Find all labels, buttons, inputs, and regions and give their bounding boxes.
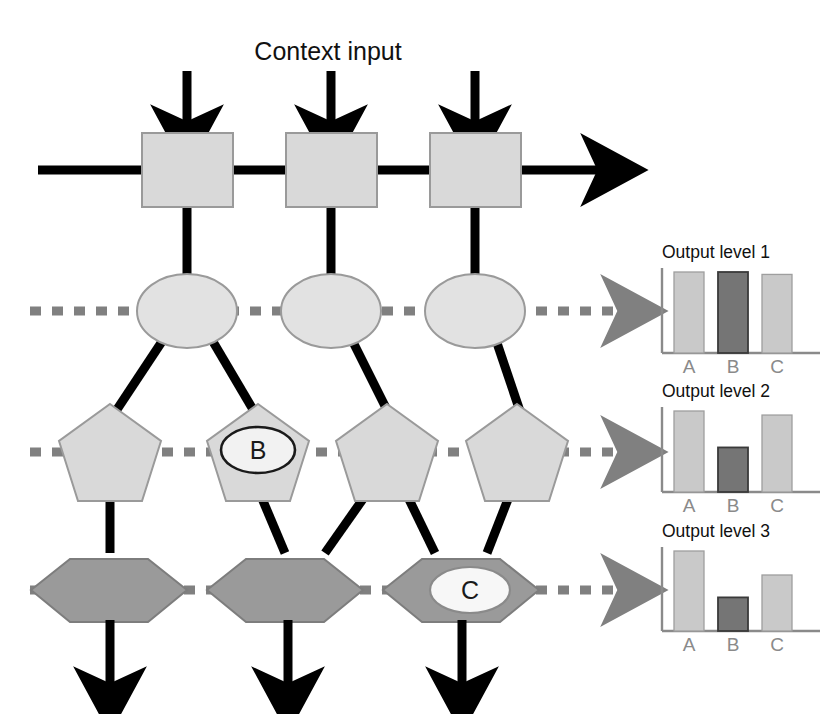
chart-bar-A[interactable] [674,551,704,631]
chart-title: Output level 3 [662,521,770,541]
level-3-hexagon-2[interactable] [207,559,363,622]
chart-output-level-3: Output level 3ABC [662,521,820,655]
figure-canvas: B C Context input Output level 1ABCOutpu… [0,0,834,714]
context-box-2[interactable] [286,133,377,207]
chart-bar-C[interactable] [762,415,792,492]
chart-bar-B[interactable] [718,447,748,492]
box-to-ellipse-connectors [187,205,475,283]
level-1-ellipse-1[interactable] [137,274,237,348]
pentagon-to-hexagon-connectors [110,489,512,553]
context-input-label: Context input [254,37,401,65]
connector-ellipse1-pentagon2 [212,340,258,418]
chart-output-level-1: Output level 1ABC [662,242,820,377]
context-input-arrows [187,71,475,124]
context-box-1[interactable] [142,133,233,207]
ellipse-to-pentagon-connectors [110,340,523,420]
output-charts: Output level 1ABCOutput level 2ABCOutput… [662,242,820,655]
level-1-ellipses [137,274,525,348]
hexagon-c-label: C [461,576,479,604]
chart-bar-B[interactable] [718,597,748,631]
chart-bar-A[interactable] [674,411,704,492]
level-3-hexagon-1[interactable] [31,559,187,622]
context-box-3[interactable] [430,133,521,207]
chart-tick-C: C [770,495,784,516]
chart-output-level-2: Output level 2ABC [662,381,820,516]
chart-bar-C[interactable] [762,575,792,631]
chart-tick-B: B [727,356,740,377]
level-3-hexagons: C [31,559,539,622]
level-2-pentagons: B [59,404,568,501]
context-boxes [142,133,521,207]
level-3-output-arrows [110,620,462,686]
level-1-ellipse-2[interactable] [281,274,381,348]
level-2-pentagon-3[interactable] [336,404,438,501]
level-1-ellipse-3[interactable] [425,274,525,348]
chart-bar-A[interactable] [674,272,704,353]
chart-title: Output level 1 [662,242,770,262]
chart-tick-B: B [727,634,740,655]
hierarchical-context-diagram: B C Context input Output level 1ABCOutpu… [0,0,834,714]
chart-title: Output level 2 [662,381,770,401]
level-2-pentagon-1[interactable] [59,404,161,501]
chart-tick-A: A [683,356,696,377]
level-2-pentagon-4[interactable] [466,404,568,501]
chart-tick-C: C [770,356,784,377]
chart-tick-A: A [683,634,696,655]
chart-bar-C[interactable] [762,274,792,353]
chart-bar-B[interactable] [718,272,748,353]
chart-tick-B: B [727,495,740,516]
pentagon-b-label: B [250,436,267,464]
chart-tick-C: C [770,634,784,655]
connector-ellipse1-pentagon1 [110,340,163,420]
chart-tick-A: A [683,495,696,516]
